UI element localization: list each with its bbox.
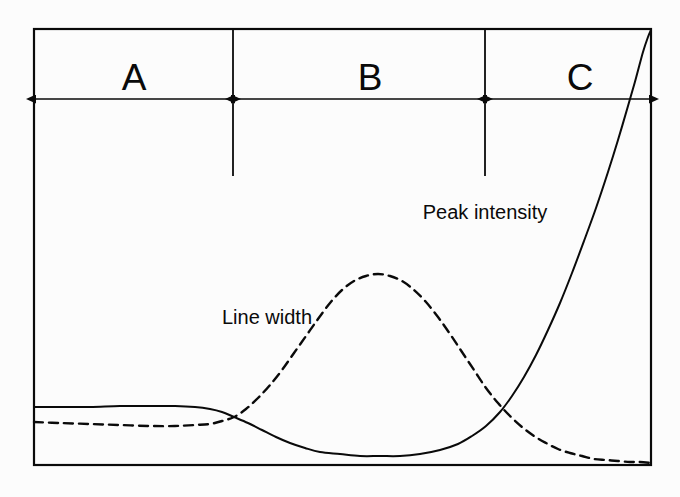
region-dividers	[233, 30, 485, 176]
figure-container: A B C Peak intensity Line width	[0, 0, 680, 497]
region-label-c: C	[567, 59, 594, 96]
peak-intensity-label: Peak intensity	[423, 202, 548, 222]
region-label-b: B	[358, 59, 383, 96]
region-label-a: A	[122, 59, 147, 96]
curve-line-width	[34, 274, 651, 463]
line-width-label: Line width	[222, 307, 312, 327]
